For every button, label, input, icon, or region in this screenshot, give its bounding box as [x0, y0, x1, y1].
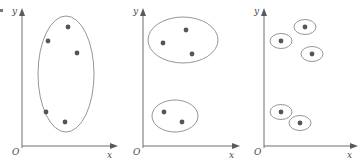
panel-1-data-point — [46, 39, 51, 44]
panel-2-data-point — [190, 52, 195, 57]
panel-2-data-point — [161, 41, 166, 46]
panel-3-data-point — [279, 110, 284, 115]
panel-2-origin-label: O — [133, 147, 141, 157]
clustering-illustration-figure: y x O y x O — [0, 0, 362, 167]
panel-2-data-point — [184, 28, 189, 33]
panel-3-x-axis-label: x — [347, 150, 352, 160]
panel-1-cluster-1-outline — [38, 16, 94, 132]
panel-1-y-axis-arrowhead — [19, 8, 25, 16]
panel-1-data-point — [44, 110, 49, 115]
panel-3-data-point — [298, 121, 303, 126]
panel-2-x-axis-label: x — [229, 150, 234, 160]
panel-1-data-point — [75, 51, 80, 56]
panel-1-edge-mark — [0, 9, 3, 12]
panel-1-data-point — [63, 120, 68, 125]
panel-3-data-point — [303, 25, 308, 30]
panel-2-data-point — [162, 110, 167, 115]
panel-2-two-separated-clusters: y x O — [132, 6, 240, 160]
panel-3-five-singleton-clusters: y x O — [253, 6, 358, 160]
panel-2-y-axis-label: y — [132, 6, 139, 16]
panel-3-x-axis-arrowhead — [350, 143, 358, 149]
panel-3-origin-label: O — [254, 147, 262, 157]
panel-2-y-axis-arrowhead — [140, 8, 146, 16]
panel-3-y-axis-label: y — [253, 6, 260, 16]
figure-canvas: y x O y x O — [0, 0, 362, 167]
panel-2-x-axis-arrowhead — [232, 143, 240, 149]
panel-1-single-elongated-cluster: y x O — [0, 6, 118, 160]
panel-2-cluster-1-outline — [148, 17, 218, 63]
panel-3-y-axis-arrowhead — [261, 8, 267, 16]
panel-3-data-point — [279, 39, 284, 44]
panel-3-data-point — [310, 52, 315, 57]
panel-1-data-point — [66, 25, 71, 30]
panel-1-x-axis-label: x — [107, 150, 112, 160]
panel-2-cluster-2-outline — [152, 100, 198, 132]
panel-1-y-axis-label: y — [11, 6, 18, 16]
panel-2-data-point — [180, 120, 185, 125]
panel-1-origin-label: O — [12, 147, 20, 157]
panel-1-x-axis-arrowhead — [110, 143, 118, 149]
